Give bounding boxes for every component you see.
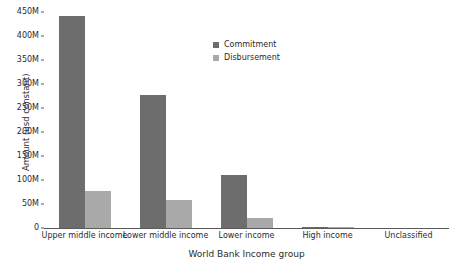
- bar-disbursement[interactable]: [247, 218, 273, 228]
- y-tick-label: 0: [34, 224, 39, 232]
- x-tick-label: Unclassified: [384, 232, 432, 240]
- x-tick-label: High income: [302, 232, 352, 240]
- y-axis-tick-labels: 050M100M150M200M250M300M350M400M450M: [0, 0, 44, 272]
- legend-label: Commitment: [224, 41, 276, 49]
- bar-commitment[interactable]: [221, 175, 247, 228]
- legend-item[interactable]: Disbursement: [213, 52, 305, 63]
- bar-commitment[interactable]: [140, 95, 166, 228]
- y-tick-label: 50M: [22, 200, 39, 208]
- chart-legend: CommitmentDisbursement: [213, 39, 305, 65]
- y-tick-label: 200M: [17, 128, 39, 136]
- y-tick-label: 350M: [17, 56, 39, 64]
- y-tick-label: 150M: [17, 152, 39, 160]
- y-tick-label: 300M: [17, 80, 39, 88]
- bar-disbursement[interactable]: [85, 191, 111, 228]
- legend-swatch-icon: [213, 42, 219, 48]
- x-tick-label: Lower income: [219, 232, 275, 240]
- bar-commitment[interactable]: [59, 16, 85, 228]
- y-tick-label: 450M: [17, 8, 39, 16]
- bar-group: [383, 10, 435, 228]
- bar-disbursement[interactable]: [166, 200, 192, 228]
- x-axis-label: World Bank Income group: [44, 250, 449, 259]
- legend-swatch-icon: [213, 55, 219, 61]
- x-tick-label: Lower middle income: [123, 232, 209, 240]
- bar-group: [302, 10, 354, 228]
- y-tick-label: 400M: [17, 32, 39, 40]
- bar-group: [140, 10, 192, 228]
- legend-item[interactable]: Commitment: [213, 39, 305, 50]
- bar-chart-figure: Amount (usd constant) 050M100M150M200M25…: [0, 0, 453, 272]
- y-tick-label: 100M: [17, 176, 39, 184]
- x-tick-label: Upper middle income: [42, 232, 128, 240]
- x-axis-line: [44, 228, 449, 229]
- y-tick-label: 250M: [17, 104, 39, 112]
- bar-group: [59, 10, 111, 228]
- legend-label: Disbursement: [224, 54, 280, 62]
